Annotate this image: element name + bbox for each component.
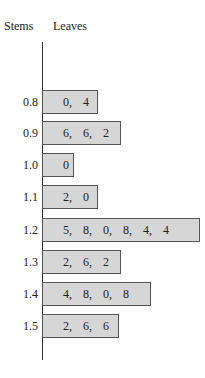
leaf-values: 2, 0 — [63, 190, 89, 205]
leaf-bar: 2, 6, 2 — [42, 250, 121, 274]
stem-label: 1.4 — [0, 287, 38, 302]
leaf-values: 2, 6, 6 — [63, 319, 109, 334]
leaf-bar: 4, 8, 0, 8 — [42, 282, 151, 306]
leaf-values: 5, 8, 0, 8, 4, 4 — [63, 223, 169, 238]
leaf-values: 0 — [63, 158, 69, 173]
stem-label: 1.1 — [0, 190, 38, 205]
leaf-values: 6, 6, 2 — [63, 126, 109, 141]
leaf-values: 2, 6, 2 — [63, 255, 109, 270]
stem-label: 0.9 — [0, 126, 38, 141]
leaf-bar: 2, 0 — [42, 185, 98, 209]
leaf-bar: 0, 4 — [42, 90, 98, 114]
leaf-values: 4, 8, 0, 8 — [63, 287, 129, 302]
stem-label: 0.8 — [0, 95, 38, 110]
leaf-bar: 2, 6, 6 — [42, 314, 119, 338]
leaf-bar: 0 — [42, 153, 74, 177]
stem-label: 1.2 — [0, 223, 38, 238]
leaf-bar: 6, 6, 2 — [42, 121, 121, 145]
stem-label: 1.0 — [0, 158, 38, 173]
stem-label: 1.5 — [0, 319, 38, 334]
leaf-bar: 5, 8, 0, 8, 4, 4 — [42, 218, 200, 242]
leaf-values: 0, 4 — [63, 95, 89, 110]
stem-label: 1.3 — [0, 255, 38, 270]
stems-header: Stems — [4, 19, 33, 34]
leaves-header: Leaves — [53, 19, 87, 34]
